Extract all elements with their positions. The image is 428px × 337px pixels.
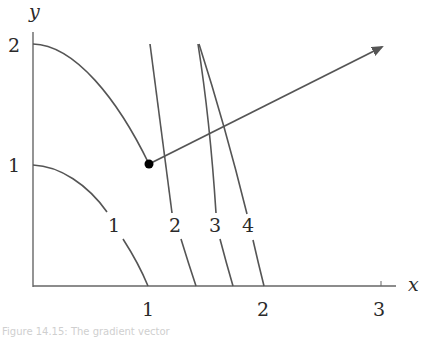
contour-level-1-lower (123, 239, 148, 286)
contour-label-1: 1 (108, 216, 120, 235)
contour-label-2: 2 (169, 216, 181, 235)
contour-level-2-a (149, 44, 190, 170)
y-tick-label-2: 2 (8, 36, 20, 55)
contour-label-3: 3 (209, 216, 221, 235)
contour-level-2-line (149, 44, 171, 213)
x-tick-label-1: 1 (142, 300, 154, 319)
contour-4-lower (253, 240, 264, 286)
marked-point (145, 160, 154, 169)
x-axis-label: x (408, 275, 419, 294)
x-tick-label-3: 3 (373, 300, 385, 319)
contour-4-upper (199, 44, 247, 214)
contour-level-2-trace (149, 44, 171, 213)
contour-2 (150, 44, 172, 213)
y-tick-label-1: 1 (8, 156, 20, 175)
contour-level-1 (33, 165, 107, 212)
contour-4 (198, 44, 246, 214)
y-axis-label: y (29, 2, 40, 21)
contour-3-lower (220, 239, 233, 286)
gradient-vector-arrow (149, 47, 382, 164)
x-tick-label-2: 2 (257, 300, 269, 319)
contour-curve-2-drawn (150, 44, 182, 213)
contour-label-4: 4 (242, 216, 254, 235)
contour-level-2-top (149, 44, 184, 213)
contour-2-lower (181, 239, 196, 286)
figure-caption: Figure 14.15: The gradient vector (2, 326, 170, 337)
contour-level-2-upper (33, 44, 149, 164)
